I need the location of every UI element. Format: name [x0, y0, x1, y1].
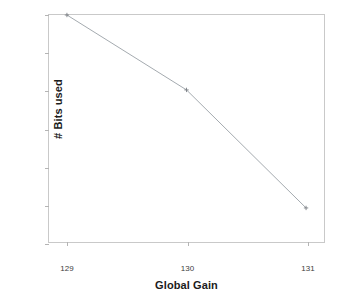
y-tick-mark: [45, 244, 49, 245]
plot-frame: 1400 1450 1500 1550 1600 1650 1700 129 1…: [48, 14, 325, 243]
x-tick-mark: [67, 242, 68, 246]
x-tick-label: 130: [181, 264, 195, 273]
y-axis-title: # Bits used: [52, 49, 64, 169]
data-point-marker: [65, 13, 69, 17]
x-tick-mark: [308, 242, 309, 246]
x-tick-label: 129: [60, 264, 74, 273]
x-axis-title: Global Gain: [49, 279, 324, 289]
figure-canvas: 1400 1450 1500 1550 1600 1650 1700 129 1…: [0, 0, 352, 289]
x-tick-label: 131: [301, 264, 315, 273]
series-polyline: [67, 15, 306, 208]
x-tick-mark: [188, 242, 189, 246]
data-series-line: [49, 15, 324, 242]
plot-area: [49, 15, 324, 242]
